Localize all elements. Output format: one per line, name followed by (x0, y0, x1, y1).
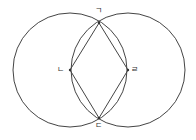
geometry-diagram (0, 0, 196, 140)
rhombus (70, 23, 128, 118)
label-top: ㄱ (95, 7, 102, 15)
point-left (69, 69, 71, 71)
point-right (127, 69, 129, 71)
label-left: ㄴ (57, 66, 64, 74)
label-right: ㄹ (131, 66, 138, 74)
point-bottom (98, 117, 100, 119)
point-top (98, 22, 100, 24)
label-bottom: ㄷ (95, 122, 102, 130)
